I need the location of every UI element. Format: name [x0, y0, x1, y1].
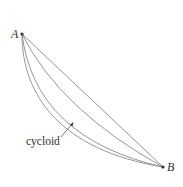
brachistochrone-diagram: A B cycloid	[0, 0, 183, 187]
cycloid-label: cycloid	[26, 135, 60, 148]
point-b-marker	[161, 165, 164, 168]
straight-line-curve	[22, 34, 163, 167]
point-a-marker	[20, 32, 23, 35]
point-b-label: B	[167, 160, 175, 174]
point-a-label: A	[10, 27, 19, 41]
